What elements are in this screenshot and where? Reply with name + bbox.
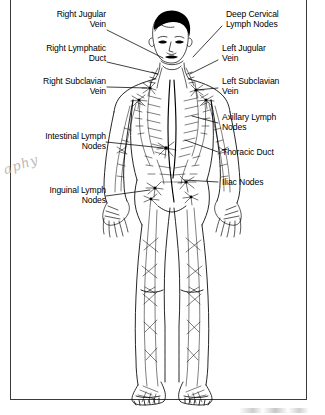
label-right-lymphatic-duct: Right Lymphatic Duct xyxy=(10,43,106,64)
feet xyxy=(132,382,212,405)
hands xyxy=(103,201,242,237)
scan-artifact xyxy=(239,408,309,413)
label-thoracic-duct: Thoracic Duct xyxy=(222,147,308,157)
label-left-subclavian-vein: Left Subclavian Vein xyxy=(222,76,312,97)
head xyxy=(149,10,192,79)
torso-lymphatic-vessels xyxy=(135,90,210,184)
label-right-subclavian-vein: Right Subclavian Vein xyxy=(6,76,106,97)
thoracic-duct-vessel xyxy=(168,80,176,202)
label-right-jugular-vein: Right Jugular Vein xyxy=(10,9,106,30)
label-intestinal-lymph-nodes: Intestinal Lymph Nodes xyxy=(10,131,106,152)
label-deep-cervical-lymph-nodes: Deep Cervical Lymph Nodes xyxy=(226,9,311,30)
leg-lymphatic-vessels xyxy=(138,208,206,403)
label-iliac-nodes: Iliac Nodes xyxy=(222,177,308,187)
body-outline xyxy=(104,79,240,385)
label-axillary-lymph-nodes: Axillary Lymph Nodes xyxy=(222,112,308,133)
label-inguinal-lymph-nodes: Inguinal Lymph Nodes xyxy=(10,185,106,206)
label-left-jugular-vein: Left Jugular Vein xyxy=(222,43,307,64)
